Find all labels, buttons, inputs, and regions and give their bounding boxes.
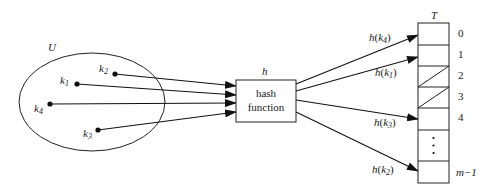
universe-label: U bbox=[48, 41, 57, 53]
svg-text:h(k2): h(k2) bbox=[372, 163, 394, 177]
svg-text:hash: hash bbox=[256, 87, 277, 99]
svg-text:h(k1): h(k1) bbox=[375, 66, 397, 80]
svg-text:k2: k2 bbox=[99, 62, 108, 76]
key-k1: k1 bbox=[60, 74, 80, 88]
svg-text:1: 1 bbox=[458, 48, 464, 60]
svg-text:function: function bbox=[248, 101, 285, 113]
universe-set: U bbox=[19, 41, 165, 151]
hash-function-diagram: U k1 k2 k3 k4 h hash function h(k4) bbox=[0, 0, 493, 192]
hash-function-box: h hash function bbox=[236, 65, 296, 122]
slot-indices: 0 1 2 3 4 m−1 bbox=[456, 27, 477, 178]
hash-arrows bbox=[296, 35, 418, 171]
key-k4: k4 bbox=[34, 101, 53, 116]
svg-text:4: 4 bbox=[458, 111, 464, 123]
hash-table: T 0 1 2 3 4 m−1 bbox=[418, 9, 477, 183]
svg-text:0: 0 bbox=[458, 27, 464, 39]
table-label: T bbox=[431, 9, 438, 21]
svg-text:k4: k4 bbox=[34, 102, 43, 116]
svg-text:k1: k1 bbox=[60, 74, 69, 88]
key-k3: k3 bbox=[83, 127, 101, 141]
svg-text:m−1: m−1 bbox=[456, 166, 477, 178]
hash-label: h bbox=[262, 65, 268, 77]
svg-text:h(k3): h(k3) bbox=[374, 116, 396, 130]
svg-text:2: 2 bbox=[458, 69, 464, 81]
svg-text:3: 3 bbox=[458, 90, 464, 102]
key-k2: k2 bbox=[99, 62, 118, 77]
svg-text:k3: k3 bbox=[83, 127, 92, 141]
svg-text:h(k4): h(k4) bbox=[369, 31, 391, 45]
